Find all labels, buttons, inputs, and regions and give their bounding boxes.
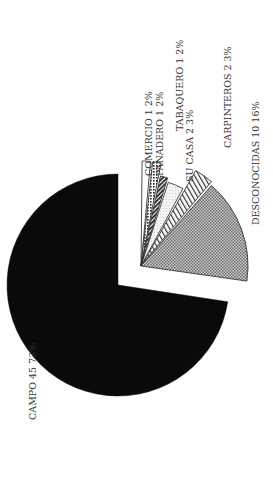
label-comercio: COMERCIO 1 2% bbox=[143, 91, 154, 176]
label-su-casa: SU CASA 2 3% bbox=[184, 110, 195, 182]
label-panadero: PANADERO 1 2% bbox=[154, 92, 165, 176]
pie-chart: CAMPO 45 73% COMERCIO 1 2% PANADERO 1 2%… bbox=[0, 0, 273, 481]
label-campo: CAMPO 45 73% bbox=[27, 343, 38, 420]
label-carpinteros: CARPINTEROS 2 3% bbox=[222, 46, 233, 148]
label-desconocidas: DESCONOCIDAS 10 16% bbox=[250, 102, 261, 225]
